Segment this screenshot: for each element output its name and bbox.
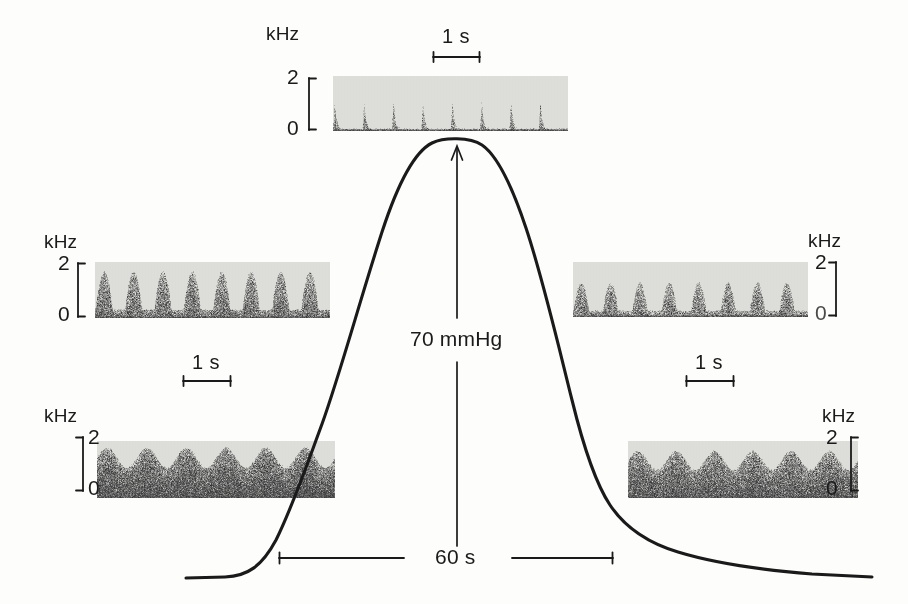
axis-tick-high-bottom-left: 2 [88,426,100,447]
axis-tick-low-bottom-left: 0 [88,477,100,498]
axis-unit-right-middle: kHz [808,231,841,250]
axis-tick-high-top: 2 [287,66,299,87]
figure-root: kHz 2 0 1 s kHz 2 0 1 s kHz 2 0 1 s kHz … [0,0,908,604]
pressure-annotation-label: 70 mmHg [410,328,502,349]
axis-bracket-bottom-right [851,437,858,491]
axis-bracket-left-middle [78,263,85,317]
scale-label-1s-top: 1 s [442,26,470,46]
axis-tick-high-left-middle: 2 [58,252,70,273]
scale-label-1s-left: 1 s [192,352,220,372]
axis-unit-left-middle: kHz [44,232,77,251]
scale-label-1s-right: 1 s [695,352,723,372]
axis-tick-low-top: 0 [287,117,299,138]
pressure-curve [186,139,872,578]
vector-ink-layer [0,0,908,604]
axis-bracket-right-middle [829,262,836,316]
axis-tick-low-right-middle: 0 [815,302,827,323]
axis-unit-top: kHz [266,24,299,43]
time-scale-label-60s: 60 s [435,546,476,567]
axis-unit-bottom-right: kHz [822,406,855,425]
axis-tick-high-bottom-right: 2 [826,426,838,447]
axis-bracket-top [309,78,316,130]
axis-tick-low-left-middle: 0 [58,303,70,324]
axis-tick-high-right-middle: 2 [815,251,827,272]
axis-unit-bottom-left: kHz [44,406,77,425]
axis-bracket-bottom-left [76,437,83,491]
axis-tick-low-bottom-right: 0 [826,477,838,498]
